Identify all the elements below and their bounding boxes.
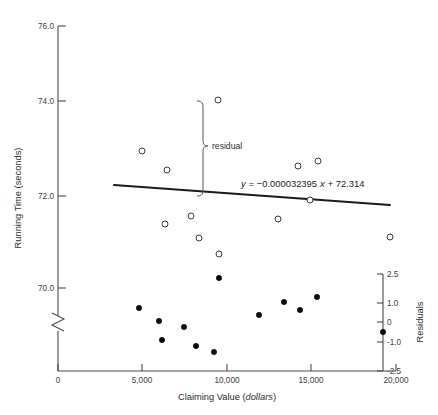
data-point-open	[139, 148, 145, 154]
regression-equation: y= −0.000032395x+ 72.314	[240, 178, 364, 189]
residual-point	[256, 312, 261, 317]
residual-point	[314, 294, 319, 299]
y-axis-title: Running Time (seconds)	[13, 148, 23, 249]
data-point-open	[275, 216, 281, 222]
residual-point	[156, 318, 161, 323]
x-ticklabel-15000: 15,000	[298, 376, 323, 385]
residual-point	[136, 305, 141, 310]
equation-tail: + 72.314	[328, 178, 365, 189]
x-axis-title: Claiming Value (dollars)	[178, 392, 276, 402]
residual-ticklabel-2_5: 2.5	[387, 270, 399, 279]
data-point-open	[215, 97, 221, 103]
equation-variable: x	[319, 178, 325, 189]
x-axis-title-italic: dollars	[246, 392, 274, 402]
residual-brace	[197, 101, 208, 196]
data-point-open	[307, 197, 313, 203]
y-ticklabel-72: 72.0	[38, 192, 54, 201]
series-running-time	[139, 97, 393, 257]
y-ticklabel-70: 70.0	[38, 284, 54, 293]
residual-point	[281, 299, 286, 304]
data-point-open	[216, 251, 222, 257]
residuals-axis: 2.5 1.0 0 -1.0 -2.5 Residuals	[377, 270, 425, 376]
data-point-open	[164, 167, 170, 173]
data-point-open	[315, 158, 321, 164]
residual-ticklabel-neg1_0: -1.0	[387, 338, 402, 347]
data-point-open	[387, 234, 393, 240]
y-ticklabel-76: 76.0	[38, 22, 54, 31]
residual-ticklabel-neg2_5: -2.5	[387, 367, 402, 376]
equation-lhs: y	[240, 178, 247, 189]
x-axis-title-close: )	[273, 392, 276, 402]
y-axis: 76.0 74.0 72.0 70.0 Running Time (second…	[13, 22, 66, 371]
residual-ticklabel-1_0: 1.0	[387, 299, 399, 308]
residual-annotation-label: residual	[212, 141, 242, 151]
equation-rhs: = −0.000032395	[249, 178, 317, 189]
data-point-open	[188, 213, 194, 219]
x-axis: 0 5,000 10,000 15,000 20,000 Claiming Va…	[56, 364, 409, 402]
x-axis-title-plain: Claiming Value (	[178, 392, 246, 402]
residual-point	[193, 343, 198, 348]
residual-point	[216, 275, 221, 280]
residuals-axis-title: Residuals	[415, 301, 425, 342]
data-point-open	[196, 235, 202, 241]
residual-point	[380, 329, 385, 334]
x-ticklabel-5000: 5,000	[132, 376, 153, 385]
residual-scatter-figure: 76.0 74.0 72.0 70.0 Running Time (second…	[0, 0, 438, 415]
residual-point	[159, 337, 164, 342]
data-point-open	[162, 221, 168, 227]
x-ticklabel-0: 0	[56, 376, 61, 385]
chart-canvas: 76.0 74.0 72.0 70.0 Running Time (second…	[0, 0, 438, 415]
y-axis-break-icon	[52, 313, 64, 331]
residual-point	[181, 324, 186, 329]
x-ticklabel-20000: 20,000	[383, 376, 408, 385]
residual-point	[297, 307, 302, 312]
y-ticklabel-74: 74.0	[38, 97, 54, 106]
residual-point	[211, 349, 216, 354]
series-residuals	[136, 275, 385, 354]
x-ticklabel-10000: 10,000	[214, 376, 239, 385]
data-point-open	[295, 163, 301, 169]
residual-ticklabel-0: 0	[387, 318, 392, 327]
